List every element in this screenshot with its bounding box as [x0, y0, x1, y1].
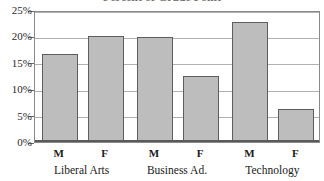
chart-title: Percent of Grade Point [0, 0, 324, 2]
gridline [35, 38, 319, 39]
bar-technology-f [278, 109, 314, 142]
bar-business-ad-m [137, 37, 173, 142]
plot-area [34, 11, 320, 143]
bar-chart-figure: Percent of Grade Point 0%5%10%15%20%25% … [0, 0, 324, 181]
y-axis-label: 15% [2, 58, 32, 69]
gridline [35, 12, 319, 13]
x-axis-baseline [35, 140, 319, 142]
bar-liberal-arts-f [88, 36, 124, 142]
x-axis-series-label: F [87, 147, 123, 159]
bar-technology-m [232, 22, 268, 142]
y-axis-label: 10% [2, 84, 32, 95]
x-axis-series-label: F [277, 147, 313, 159]
bar-liberal-arts-m [42, 54, 78, 142]
y-axis-label: 5% [2, 111, 32, 122]
y-axis-label: 25% [2, 5, 32, 16]
x-axis-group-label: Technology [212, 164, 324, 177]
bar-business-ad-f [183, 76, 219, 142]
y-axis-label: 0% [2, 137, 32, 148]
x-axis-series-label: M [231, 147, 267, 159]
x-axis-series-label: M [136, 147, 172, 159]
x-axis-series-label: M [41, 147, 77, 159]
x-axis-series-label: F [182, 147, 218, 159]
y-axis-label: 20% [2, 31, 32, 42]
